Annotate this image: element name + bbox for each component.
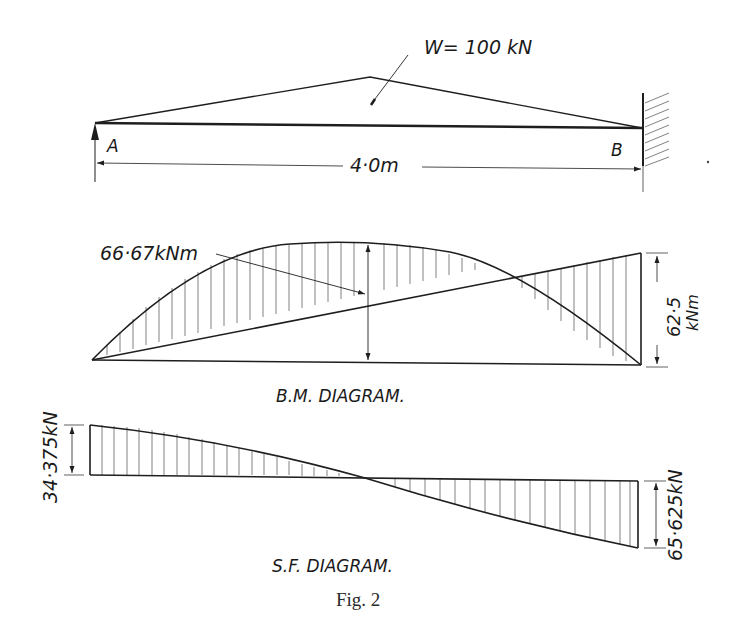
bm-max-label: 66·67kNm: [100, 242, 198, 264]
sf-diagram-title: S.F. DIAGRAM.: [272, 556, 393, 576]
sf-hatching: [102, 425, 630, 546]
figure-canvas: W= 100 kN A B 4·0m: [0, 0, 732, 644]
figure-caption: Fig. 2: [336, 589, 380, 610]
load-leader-tick: [371, 99, 375, 105]
specks: [707, 161, 709, 163]
support-label-a: A: [106, 136, 119, 156]
span-label: 4·0m: [350, 154, 399, 176]
bm-fixed-moment-unit: kNm: [683, 294, 702, 331]
bm-fixing-moment-line: [92, 253, 641, 360]
bm-max-leader: [216, 254, 365, 294]
bm-fixed-moment-value: 62·5: [663, 297, 684, 337]
triangular-load-outline: [95, 77, 642, 128]
load-label: W= 100 kN: [424, 36, 532, 58]
dimension-line-right: [422, 167, 641, 169]
sf-right-shear-label: 65·625kN: [664, 469, 686, 561]
beam-diagram: W= 100 kN A B 4·0m: [91, 36, 709, 192]
shear-force-diagram: 34·375kN 65·625kN S.F. DIAGRAM.: [39, 411, 686, 576]
sf-curve: [90, 425, 638, 548]
beam-line: [95, 123, 642, 128]
bending-moment-diagram: 66·67kNm 62·5 kNm B.M. DIAGRAM.: [92, 242, 702, 406]
bm-baseline: [92, 360, 641, 365]
bm-diagram-title: B.M. DIAGRAM.: [276, 386, 405, 406]
dimension-line-left: [97, 163, 343, 166]
sf-left-shear-label: 34·375kN: [39, 411, 61, 503]
reaction-arrow-icon: [91, 123, 99, 140]
support-label-b: B: [611, 140, 623, 160]
wall-hatch-icon: [645, 93, 669, 166]
